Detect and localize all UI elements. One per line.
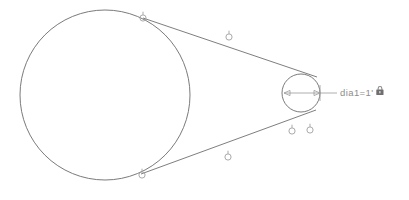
- grip-marker[interactable]: [226, 31, 232, 40]
- dimension-label[interactable]: dia1=1': [340, 87, 373, 98]
- grip-marker[interactable]: [289, 125, 295, 134]
- large-circle[interactable]: [20, 10, 190, 180]
- cad-canvas[interactable]: dia1=1': [0, 0, 409, 200]
- upper-tangent-line[interactable]: [143, 18, 317, 77]
- grip-marker[interactable]: [225, 151, 231, 160]
- lower-tangent-line[interactable]: [141, 110, 316, 174]
- cad-drawing-area[interactable]: dia1=1': [0, 0, 409, 200]
- grip-marker[interactable]: [140, 12, 146, 21]
- grip-marker[interactable]: [307, 124, 313, 133]
- lock-icon[interactable]: [376, 86, 383, 95]
